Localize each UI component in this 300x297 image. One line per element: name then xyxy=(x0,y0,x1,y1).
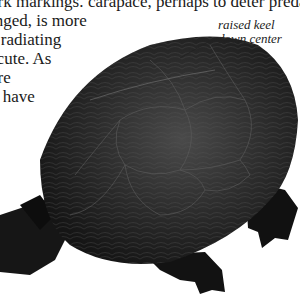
text-line: scute. As xyxy=(0,49,87,68)
annotation-line: down center xyxy=(218,32,282,46)
annotation-label: raised keel down center xyxy=(218,18,282,46)
text-line: carapace, perhaps to deter predators. xyxy=(88,0,300,11)
text-line: s radiating xyxy=(0,30,87,49)
text-line: inged, is more xyxy=(0,11,87,30)
left-body-text: ark markings. inged, is more s radiating… xyxy=(0,0,87,125)
text-line: d have xyxy=(0,87,87,106)
text-line: ark markings. xyxy=(0,0,87,11)
annotation-line: raised keel xyxy=(218,18,282,32)
text-line: are xyxy=(0,68,87,87)
right-body-text: carapace, perhaps to deter predators. xyxy=(88,0,300,11)
text-line: r xyxy=(0,106,87,125)
